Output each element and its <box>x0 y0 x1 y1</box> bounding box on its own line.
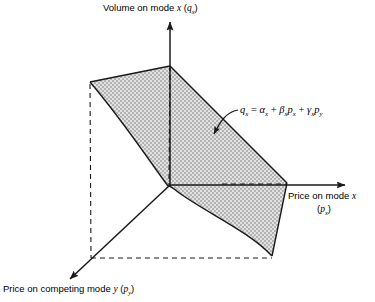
equation-plus-1: + <box>268 104 279 115</box>
surface-equation-label: qx = αx + βxpx + γxpy <box>240 104 323 115</box>
vertical-axis-label-text: Volume on mode <box>103 2 177 13</box>
diagram-canvas <box>0 0 375 302</box>
depth-axis-label-text: Price on competing mode <box>3 283 113 294</box>
depth-axis-line <box>70 185 170 279</box>
horizontal-axis-label-var: x <box>352 191 356 201</box>
vertical-axis-label-paren-close: ) <box>195 2 198 13</box>
shaded-surface <box>90 66 287 256</box>
horizontal-axis-paren-close: ) <box>328 203 331 214</box>
horizontal-axis-label-line2: (px) <box>288 203 360 216</box>
back-left-dashed-line <box>90 84 91 258</box>
figure-container: Volume on mode x (qx) Price on mode x(px… <box>0 0 375 302</box>
horizontal-axis-label: Price on mode x(px) <box>288 190 360 216</box>
vertical-axis-label: Volume on mode x (qx) <box>103 2 198 15</box>
depth-axis-paren-close: ) <box>131 283 134 294</box>
equation-plus-2: + <box>296 104 307 115</box>
equation-p2-sub: y <box>320 110 323 117</box>
equation-equals: = <box>248 104 259 115</box>
horizontal-axis-label-text: Price on mode <box>288 190 352 201</box>
depth-axis-label: Price on competing mode y (py) <box>3 283 134 296</box>
